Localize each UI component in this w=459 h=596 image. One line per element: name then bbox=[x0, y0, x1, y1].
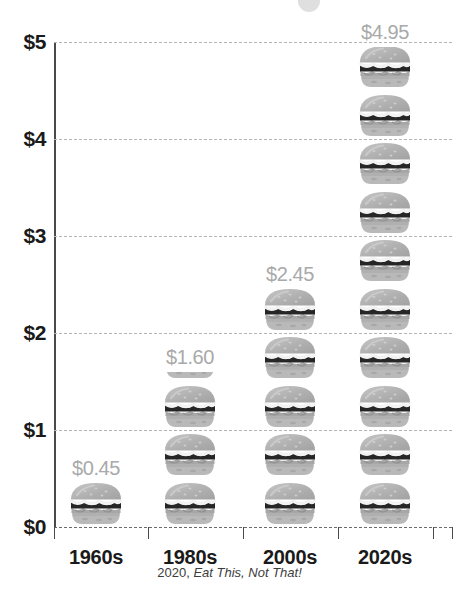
burger-icon bbox=[356, 91, 414, 140]
burger-icon bbox=[161, 382, 219, 431]
x-axis-tick bbox=[243, 527, 244, 539]
burger-icon bbox=[356, 382, 414, 431]
burger-icon bbox=[161, 430, 219, 479]
y-axis-tick-label: $1 bbox=[23, 418, 46, 442]
x-axis-tick bbox=[338, 527, 339, 539]
burger-icon bbox=[356, 236, 414, 285]
decorative-dot bbox=[298, 0, 320, 12]
burger-column-1960s: $0.45 bbox=[67, 483, 125, 527]
bar-value-label: $1.60 bbox=[166, 346, 214, 369]
burger-icon bbox=[261, 333, 319, 382]
plot-area: $0$1$2$3$4$5 $0.45 bbox=[54, 42, 452, 527]
chart-credit: 2020, Eat This, Not That! bbox=[0, 565, 459, 580]
credit-year: 2020, bbox=[157, 565, 193, 580]
x-axis-tick bbox=[433, 527, 434, 539]
burger-icon bbox=[356, 139, 414, 188]
burger-price-chart: $0$1$2$3$4$5 $0.45 bbox=[0, 0, 459, 596]
burger-icon bbox=[261, 430, 319, 479]
burger-icon bbox=[356, 188, 414, 237]
burger-icon bbox=[356, 479, 414, 528]
burger-column-2020s: $4.95 bbox=[356, 47, 414, 527]
bar-value-label: $4.95 bbox=[361, 21, 409, 44]
burger-icon-partial bbox=[67, 483, 125, 527]
burger-icon bbox=[261, 479, 319, 528]
burger-icon bbox=[356, 430, 414, 479]
y-axis-tick-label: $3 bbox=[23, 224, 46, 248]
burger-icon bbox=[261, 382, 319, 431]
y-axis-tick-label: $4 bbox=[23, 127, 46, 151]
x-axis-tick bbox=[54, 527, 55, 539]
y-axis-line bbox=[54, 42, 56, 527]
burger-column-2000s: $2.45 bbox=[261, 289, 319, 527]
burger-icon bbox=[161, 479, 219, 528]
y-axis-tick-label: $0 bbox=[23, 515, 46, 539]
burger-column-1980s: $1.60 bbox=[161, 372, 219, 527]
burger-icon-partial bbox=[161, 372, 219, 382]
x-axis-tick bbox=[148, 527, 149, 539]
burger-icon bbox=[356, 285, 414, 334]
x-axis-tick bbox=[452, 527, 453, 539]
burger-icon bbox=[356, 333, 414, 382]
burger-icon-partial bbox=[261, 289, 319, 333]
bar-value-label: $2.45 bbox=[266, 263, 314, 286]
burger-icon-partial bbox=[356, 47, 414, 91]
bar-value-label: $0.45 bbox=[72, 457, 120, 480]
credit-source: Eat This, Not That! bbox=[193, 565, 301, 580]
gridline-0 bbox=[54, 527, 452, 528]
y-axis-tick-label: $2 bbox=[23, 321, 46, 345]
y-axis-tick-label: $5 bbox=[23, 30, 46, 54]
